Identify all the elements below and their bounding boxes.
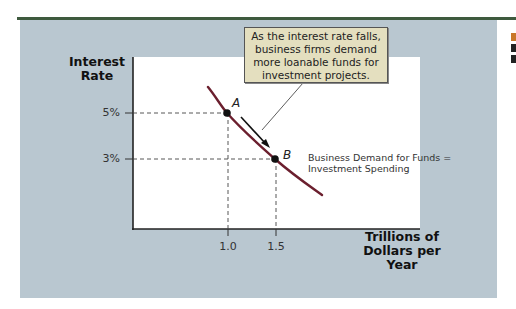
callout-box: As the interest rate falls, business fir…	[244, 27, 388, 83]
y-tick-label-3: 3%	[80, 152, 120, 165]
point-a-label: A	[232, 96, 240, 110]
x-tick-label-1-5: 1.5	[261, 240, 291, 253]
x-axis-title: Trillions of Dollars per Year	[362, 230, 442, 272]
callout-leader-line	[262, 83, 303, 130]
point-b	[271, 155, 279, 163]
clipped-text-fragment	[511, 44, 516, 52]
x-tick-label-1-0: 1.0	[213, 240, 243, 253]
curve-label: Business Demand for Funds = Investment S…	[308, 152, 458, 174]
clipped-text-fragment	[511, 55, 516, 63]
point-b-label: B	[283, 148, 291, 162]
y-tick-label-5: 5%	[80, 106, 120, 119]
y-axis-title: Interest Rate	[62, 55, 132, 83]
clipped-text-fragment	[511, 33, 516, 41]
point-a	[223, 109, 231, 117]
